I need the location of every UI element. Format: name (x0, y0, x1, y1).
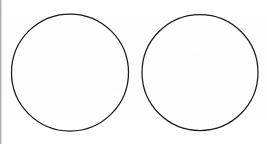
left-circle (12, 14, 129, 131)
figure-canvas (0, 0, 267, 144)
right-circle (142, 15, 258, 131)
shapes-layer (0, 0, 267, 144)
